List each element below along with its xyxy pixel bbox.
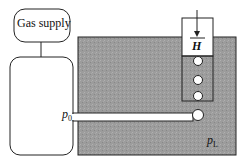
liquid-pressure-subscript: L bbox=[213, 140, 218, 149]
inlet-pressure-subscript: 0 bbox=[68, 114, 72, 123]
gas-pipe bbox=[73, 113, 193, 121]
bubble bbox=[194, 76, 203, 85]
bubble bbox=[194, 92, 203, 101]
gas-tank bbox=[10, 57, 73, 155]
gas-supply-label: Gas supply bbox=[17, 16, 71, 31]
liquid-pressure-label: pL bbox=[207, 133, 218, 149]
inlet-pressure-label: p0 bbox=[62, 107, 72, 123]
column-depth-label: H bbox=[192, 39, 201, 54]
bubble-forming bbox=[193, 110, 204, 121]
bubble bbox=[194, 57, 203, 66]
